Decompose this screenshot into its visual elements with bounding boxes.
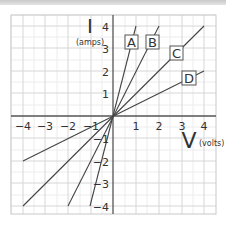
series-label-a: A (125, 35, 138, 50)
svg-text:4: 4 (102, 21, 109, 34)
svg-text:−2: −2 (93, 156, 109, 169)
svg-text:−3: −3 (93, 178, 109, 191)
y-axis-unit: (amps) (76, 38, 104, 47)
y-tick-labels: 4 3 2 1 −1 −2 −3 −4 (93, 21, 109, 214)
iv-chart: A B C D −4 −3 −2 −1 1 2 3 4 4 3 2 1 −1 −… (0, 0, 226, 225)
svg-text:−2: −2 (60, 120, 76, 133)
svg-text:1: 1 (133, 120, 140, 133)
svg-text:1: 1 (102, 88, 109, 101)
svg-text:−3: −3 (37, 120, 53, 133)
series-label-d: D (182, 71, 196, 86)
y-axis-symbol: I (87, 14, 93, 38)
svg-text:2: 2 (102, 66, 109, 79)
x-axis-symbol: V (181, 128, 196, 153)
svg-text:A: A (127, 35, 136, 50)
svg-text:−4: −4 (15, 120, 31, 133)
svg-text:−4: −4 (93, 201, 109, 214)
svg-text:D: D (184, 71, 194, 86)
series-label-c: C (170, 46, 183, 61)
series-label-b: B (146, 35, 159, 50)
x-axis-unit: (volts) (199, 139, 224, 148)
svg-text:4: 4 (201, 120, 208, 133)
svg-text:C: C (172, 46, 181, 61)
svg-text:B: B (148, 35, 157, 50)
svg-text:2: 2 (156, 120, 163, 133)
svg-text:−1: −1 (83, 120, 99, 133)
svg-text:−1: −1 (93, 133, 109, 146)
